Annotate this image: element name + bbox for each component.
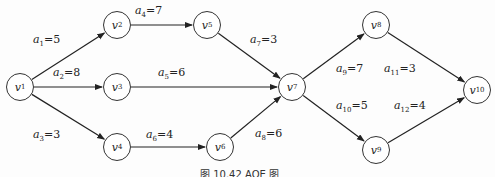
vertex-node: v6 — [206, 133, 234, 161]
edge-label: a2=8 — [53, 66, 80, 81]
edge-label: a9=7 — [336, 62, 363, 77]
edge-label: a11=3 — [384, 62, 416, 77]
vertex-node: v5 — [193, 11, 221, 39]
edge-label: a6=4 — [146, 128, 173, 143]
edge-label: a7=3 — [250, 33, 277, 48]
vertex-node: v8 — [362, 11, 390, 39]
edge-label: a10=5 — [336, 99, 368, 114]
edge-label: a8=6 — [255, 127, 282, 142]
vertex-node: v9 — [362, 136, 390, 164]
vertex-node: v2 — [103, 11, 131, 39]
vertex-node: v1 — [6, 73, 34, 101]
edge-label: a1=5 — [33, 33, 60, 48]
vertex-node: v3 — [103, 73, 131, 101]
edge-label: a4=7 — [135, 4, 162, 19]
aoe-network-diagram: v1v2v3v4v5v6v7v8v9v10 a1=5a2=8a3=3a4=7a5… — [0, 0, 495, 177]
edge-label: a3=3 — [33, 128, 60, 143]
edge-layer — [0, 0, 495, 177]
edge-label: a12=4 — [394, 99, 426, 114]
vertex-node: v7 — [278, 73, 306, 101]
figure-caption: 图 10.42 AOE 图 — [200, 166, 279, 177]
vertex-node: v4 — [103, 133, 131, 161]
vertex-node: v10 — [463, 76, 491, 104]
edge-label: a5=6 — [158, 66, 185, 81]
